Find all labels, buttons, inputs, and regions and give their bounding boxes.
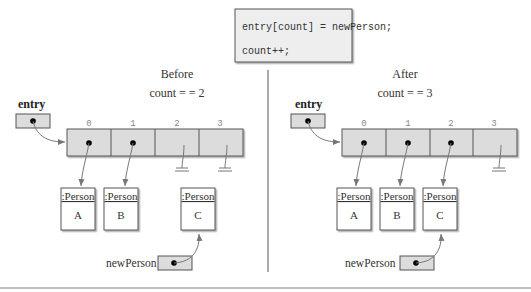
before-panel: Before count = = 2 entry 0 1 2 3 [16,67,243,270]
svg-text::Person: :Person [182,190,216,202]
before-entry-label: entry [18,97,45,111]
code-line-1: entry[count] = newPerson; [242,22,392,33]
index-label: 0 [86,119,91,129]
index-label: 2 [448,119,453,129]
svg-text:A: A [350,209,358,221]
svg-text::Person: :Person [424,190,458,202]
svg-text::Person: :Person [105,190,139,202]
before-newperson-label: newPerson [106,257,157,269]
person-object-a: :Person A [61,188,95,230]
svg-text:B: B [117,209,124,221]
after-count-label: count = = 3 [377,86,432,100]
person-object-b: :Person B [104,188,138,230]
index-label: 2 [174,119,179,129]
after-newperson-label: newPerson [345,257,396,269]
after-title: After [392,67,417,81]
before-title: Before [161,67,194,81]
svg-text::Person: :Person [338,190,372,202]
index-label: 3 [217,119,222,129]
person-object-b: :Person B [380,188,414,230]
svg-text:B: B [393,209,400,221]
person-object-c: :Person C [423,188,457,230]
code-line-2: count++; [242,46,290,57]
code-box: entry[count] = newPerson; count++; [235,9,392,62]
svg-text::Person: :Person [62,190,96,202]
index-label: 1 [130,119,135,129]
svg-text:C: C [194,209,201,221]
index-label: 1 [405,119,410,129]
array-insert-diagram: entry[count] = newPerson; count++; Befor… [0,0,531,292]
svg-text:A: A [74,209,82,221]
index-label: 3 [491,119,496,129]
before-count-label: count = = 2 [149,86,204,100]
svg-text:C: C [436,209,443,221]
svg-text::Person: :Person [381,190,415,202]
after-entry-label: entry [295,97,322,111]
after-panel: After count = = 3 entry 0 1 2 3 :Person [291,67,517,270]
person-object-c: :Person C [181,188,215,230]
person-object-a: :Person A [337,188,371,230]
index-label: 0 [361,119,366,129]
